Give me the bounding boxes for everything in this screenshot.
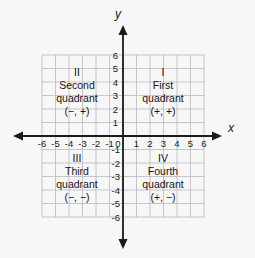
coordinate-plane-svg: y x 0 -6 -5 -4 -3 -2 -1 1 2 3 4 5 6 1 2 …: [0, 0, 255, 258]
quadrant-numeral: IV: [158, 152, 168, 164]
quadrant-name-line1: Fourth: [148, 165, 179, 177]
quadrant-name-line2: quadrant: [142, 92, 184, 104]
x-tick-label: -2: [92, 138, 100, 149]
x-tick-label: 1: [134, 138, 139, 149]
y-tick-labels-negative: -1 -2 -3 -4 -5 -6: [112, 144, 120, 223]
y-tick-label: -5: [112, 198, 120, 209]
y-tick-label: 3: [113, 90, 118, 101]
y-tick-label: -3: [112, 171, 120, 182]
quadrant-name-line1: First: [153, 79, 173, 91]
x-tick-label: 3: [161, 138, 166, 149]
quadrant-4-label: IV Fourth quadrant (+, −): [142, 152, 184, 203]
quadrant-name-line2: quadrant: [56, 178, 98, 190]
y-tick-label: -4: [112, 185, 120, 196]
x-tick-labels-negative: -6 -5 -4 -3 -2 -1: [38, 138, 114, 149]
quadrant-signs: (−, −): [64, 191, 89, 203]
quadrant-name-line2: quadrant: [142, 178, 184, 190]
y-tick-label: 6: [113, 50, 118, 61]
y-tick-label: 1: [113, 117, 118, 128]
quadrant-name-line1: Second: [59, 79, 95, 91]
x-tick-labels-positive: 1 2 3 4 5 6: [134, 138, 207, 149]
x-tick-label: 6: [201, 138, 206, 149]
coordinate-plane-diagram: y x 0 -6 -5 -4 -3 -2 -1 1 2 3 4 5 6 1 2 …: [0, 0, 255, 258]
quadrant-name-line2: quadrant: [56, 92, 98, 104]
y-axis-label: y: [114, 7, 122, 21]
y-tick-labels-positive: 1 2 3 4 5 6: [113, 50, 118, 129]
quadrant-numeral: II: [74, 66, 80, 78]
quadrant-name-line1: Third: [65, 165, 89, 177]
x-tick-label: -3: [78, 138, 86, 149]
quadrant-3-label: III Third quadrant (−, −): [56, 152, 98, 203]
y-tick-label: -6: [112, 212, 120, 223]
quadrant-signs: (+, +): [150, 105, 175, 117]
x-axis-label: x: [227, 121, 235, 135]
quadrant-signs: (+, −): [150, 191, 175, 203]
y-tick-label: -2: [112, 158, 120, 169]
x-tick-label: 5: [188, 138, 193, 149]
x-axis-arrow-left: [13, 132, 23, 141]
x-axis-arrow-right: [212, 132, 222, 141]
y-tick-label: 5: [113, 63, 118, 74]
x-tick-label: -5: [51, 138, 59, 149]
x-tick-label: 2: [147, 138, 152, 149]
y-tick-label: 2: [113, 104, 118, 115]
quadrant-numeral: III: [73, 152, 82, 164]
x-tick-label: -6: [38, 138, 46, 149]
y-tick-label: -1: [112, 144, 120, 155]
y-tick-label: 4: [113, 77, 118, 88]
y-axis-arrow-down: [119, 239, 128, 249]
x-tick-label: 4: [174, 138, 179, 149]
y-axis-arrow-up: [119, 25, 128, 35]
quadrant-signs: (−, +): [64, 105, 89, 117]
quadrant-numeral: I: [162, 66, 165, 78]
x-tick-label: -4: [65, 138, 73, 149]
